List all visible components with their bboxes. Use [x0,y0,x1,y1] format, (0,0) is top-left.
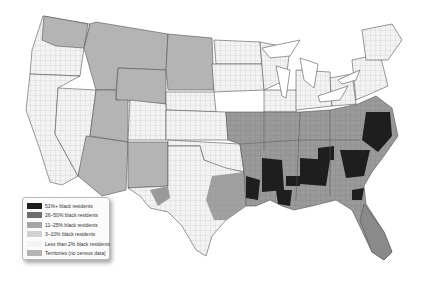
legend-label: 51%+ black residents [45,203,93,209]
legend-swatch [27,250,42,256]
legend-label: 11–25% black residents [45,222,98,228]
legend-swatch [27,203,42,209]
legend-swatch [27,241,42,247]
legend-label: 26–50% black residents [45,212,98,218]
legend-label: Territories (no census data) [45,250,106,256]
southern-states [226,96,398,260]
legend-item-3-10: 3–10% black residents [27,230,105,240]
map-legend: 51%+ black residents 26–50% black reside… [22,197,110,260]
legend-item-51-plus: 51%+ black residents [27,201,105,211]
legend-item-26-50: 26–50% black residents [27,211,105,221]
legend-label: Less than 2% black residents [45,241,110,247]
legend-swatch [27,212,42,218]
legend-item-territories: Territories (no census data) [27,249,105,259]
legend-item-11-25: 11–25% black residents [27,220,105,230]
legend-swatch [27,222,42,228]
legend-label: 3–10% black residents [45,231,95,237]
legend-swatch [27,231,42,237]
legend-item-less-than-2: Less than 2% black residents [27,239,105,249]
